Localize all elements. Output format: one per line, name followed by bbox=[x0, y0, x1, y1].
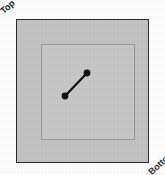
segment-endpoint-dot-upper-right bbox=[84, 70, 91, 77]
figure-container: Top Bottom bbox=[0, 0, 165, 175]
segment-endpoint-dot-lower-left bbox=[62, 93, 69, 100]
line-segment bbox=[65, 73, 87, 96]
segment-overlay bbox=[0, 0, 165, 175]
